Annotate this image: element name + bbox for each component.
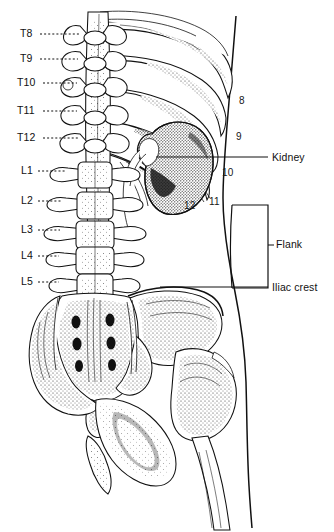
rib-number-11: 11 [209,196,220,207]
flank-label: Flank [276,238,303,250]
label-L4-text: L4 [21,249,33,261]
rib-number-10: 10 [222,167,234,178]
rib-number-12: 12 [184,200,196,211]
iliac-crest-label: Iliac crest [272,281,317,293]
anatomy-illustration: T8 T9 T10 T11 T12 L1 L2 [0,0,334,532]
label-L1-text: L1 [21,164,33,176]
label-L3-text: L3 [21,223,33,235]
anatomy-svg-canvas: T8 T9 T10 T11 T12 L1 L2 [0,0,334,532]
label-T11-text: T11 [17,104,35,116]
label-T12-text: T12 [17,131,35,143]
label-L2-text: L2 [21,194,33,206]
rib-number-8: 8 [239,95,245,106]
kidney-label: Kidney [272,151,305,163]
label-T10-text: T10 [17,76,35,88]
label-T9-text: T9 [20,52,33,64]
label-T8-text: T8 [20,27,33,39]
label-L5-text: L5 [21,275,33,287]
rib-number-9: 9 [236,131,242,142]
